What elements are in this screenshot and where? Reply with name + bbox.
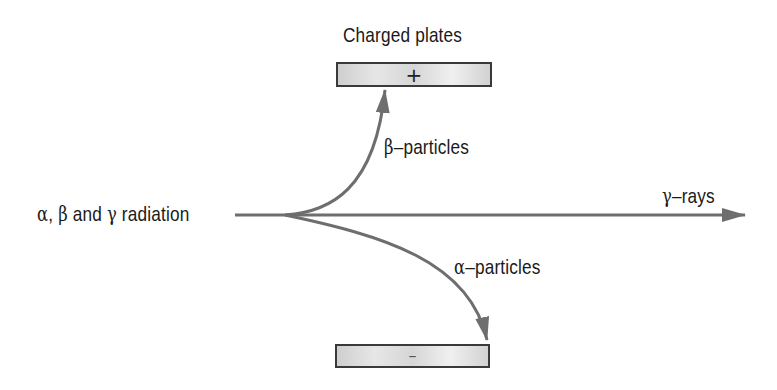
gamma-label-text: –rays <box>672 184 715 207</box>
radiation-deflection-diagram: Charged plates + – α, β and γ radiation … <box>0 0 777 390</box>
source-radiation-label: α, β and γ radiation <box>37 203 189 224</box>
alpha-label-text: –particles <box>465 255 540 278</box>
negative-plate: – <box>335 344 490 368</box>
alpha-symbol: α <box>37 202 48 226</box>
beta-label-text: –particles <box>394 135 469 158</box>
charged-plates-title: Charged plates <box>343 24 462 45</box>
beta-particle-path <box>285 90 385 215</box>
gamma-rays-label: γ–rays <box>662 185 715 206</box>
beta-symbol: β <box>58 202 68 226</box>
plus-sign-icon: + <box>406 65 423 85</box>
label-text: and <box>68 202 107 225</box>
label-text: radiation <box>117 202 189 225</box>
minus-sign-icon: – <box>409 348 417 364</box>
gamma-symbol: γ <box>107 202 117 226</box>
radiation-paths <box>0 0 777 390</box>
gamma-symbol: γ <box>662 184 672 208</box>
positive-plate: + <box>336 62 492 87</box>
beta-particles-label: β–particles <box>384 136 469 157</box>
label-text: , <box>48 202 58 225</box>
beta-symbol: β <box>384 135 394 159</box>
alpha-particles-label: α–particles <box>454 256 541 277</box>
alpha-symbol: α <box>454 255 465 279</box>
